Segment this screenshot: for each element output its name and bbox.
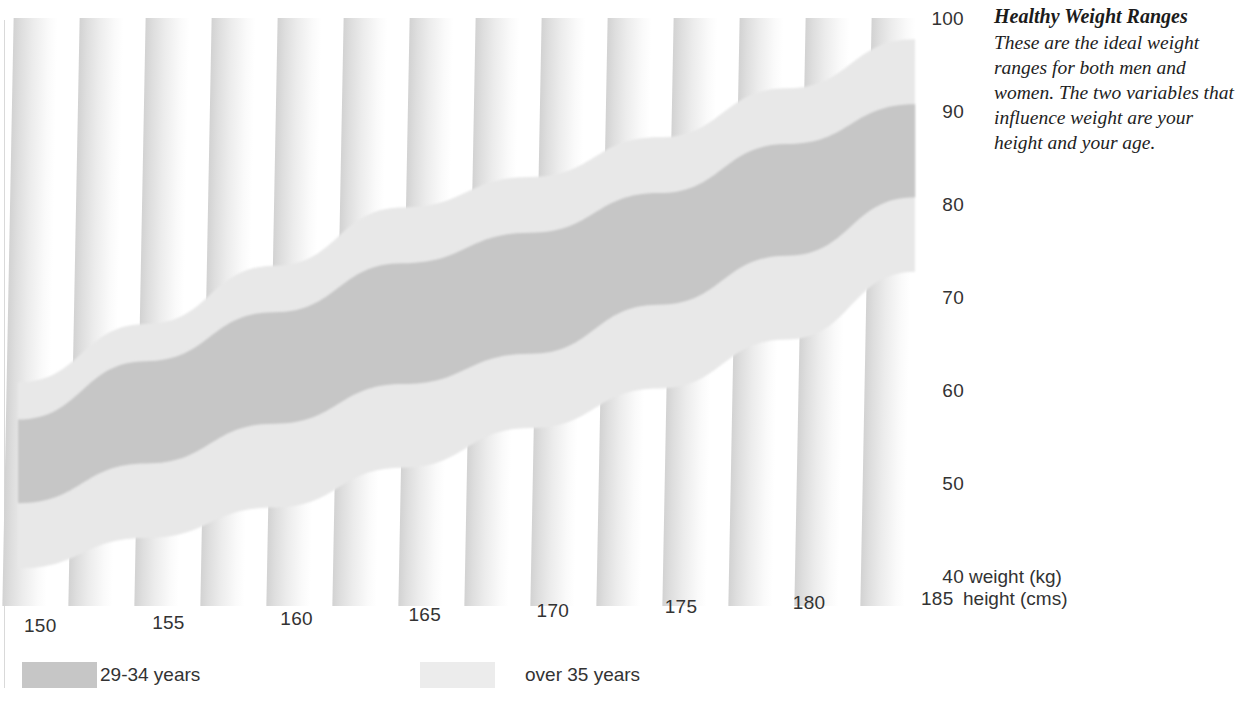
chart-legend: 29-34 yearsover 35 years (0, 660, 1245, 704)
note-title: Healthy Weight Ranges (994, 4, 1244, 29)
band-svg (0, 18, 917, 606)
legend-swatch (22, 662, 97, 688)
y-axis-tick: 90 (922, 101, 964, 123)
y-axis-tick: 100 (922, 8, 964, 30)
y-axis-tick: 60 (922, 380, 964, 402)
legend-label: 29-34 years (100, 664, 200, 686)
x-axis-tick: 160 (280, 608, 313, 630)
page-canvas: 100908070605040weight (kg)15015516016517… (0, 0, 1245, 710)
y-axis-tick: 80 (922, 194, 964, 216)
x-axis-title: height (cms) (963, 588, 1068, 610)
x-axis-tick: 165 (408, 604, 441, 626)
y-axis-title: weight (kg) (969, 566, 1062, 588)
y-axis-tick: 40 (922, 566, 964, 588)
chart-note: Healthy Weight Ranges These are the idea… (994, 4, 1244, 155)
legend-label: over 35 years (525, 664, 640, 686)
x-axis-tick: 185 (921, 588, 954, 610)
legend-swatch (420, 662, 495, 688)
x-axis-tick: 155 (152, 612, 185, 634)
x-axis-tick: 150 (24, 615, 57, 637)
chart-plot-area (0, 18, 917, 606)
note-body: These are the ideal weight ranges for bo… (994, 30, 1244, 155)
y-axis-tick: 50 (922, 473, 964, 495)
y-axis-tick: 70 (922, 287, 964, 309)
weight-range-bands (0, 18, 917, 606)
